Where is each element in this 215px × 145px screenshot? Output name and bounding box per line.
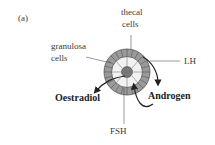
fsh-label: FSH [110,126,127,136]
follicle-illustration [0,0,215,145]
androgen-label: Androgen [148,91,191,101]
thecal-cells-label-line1: thecal [121,7,143,17]
follicle-diagram: (a) thecal cells granulosa cells LH Oest… [0,0,215,145]
granulosa-cells-label-line1: granulosa [51,41,86,51]
oestradiol-label: Oestradiol [55,93,100,103]
panel-label: (a) [18,13,28,23]
lh-label: LH [184,56,196,66]
granulosa-cells-label-line2: cells [51,53,68,63]
thecal-cells-label-line2: cells [122,19,139,29]
